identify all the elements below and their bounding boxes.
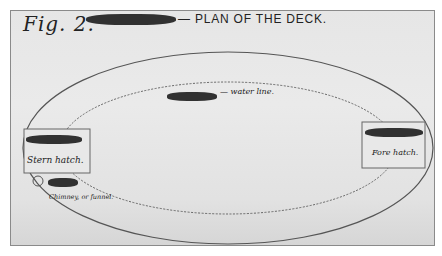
fore-hatch-label: Fore hatch.	[372, 148, 418, 157]
stern-hatch-label: Stern hatch.	[27, 155, 84, 165]
chimney-label: Chimney, or funnel.	[49, 193, 113, 201]
redacted-text-stern	[26, 135, 82, 144]
redacted-text-fore	[365, 128, 423, 137]
redacted-text-title	[86, 14, 176, 25]
figure-title: — PLAN OF THE DECK.	[178, 12, 327, 26]
redacted-text-water-line	[167, 92, 217, 101]
redacted-text-chimney	[48, 178, 78, 187]
water-line-label: — water line.	[220, 87, 274, 96]
figure-label: Fig. 2.	[23, 12, 95, 36]
